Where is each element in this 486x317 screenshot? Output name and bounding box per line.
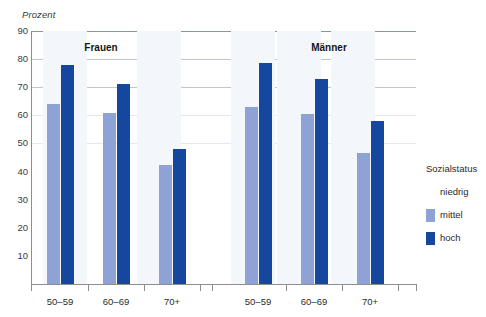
- legend-label-hoch: hoch: [440, 232, 461, 244]
- bar-männer-5059-mittel: [245, 107, 258, 284]
- bar-frauen-6069-mittel: [103, 113, 116, 284]
- y-axis-tick-labels: 908070605040302010: [0, 0, 28, 317]
- legend-item-niedrig[interactable]: niedrig: [426, 185, 469, 199]
- x-axis-tickmark: [212, 285, 213, 291]
- x-axis-tickmark: [88, 285, 89, 291]
- legend-label-mittel: mittel: [440, 209, 463, 221]
- legend-label-niedrig: niedrig: [440, 186, 469, 198]
- bar-frauen-6069-hoch: [117, 84, 130, 284]
- bar-frauen-70+-hoch: [173, 149, 186, 284]
- y-axis-tick-40: 40: [2, 167, 28, 177]
- y-axis-tick-30: 30: [2, 195, 28, 205]
- x-axis-label: 60–69: [301, 296, 327, 307]
- y-axis-tick-80: 80: [2, 54, 28, 64]
- x-axis-label: 70+: [164, 296, 180, 307]
- x-axis-label: 60–69: [103, 296, 129, 307]
- gridline-80: [31, 59, 416, 60]
- x-axis-tickmark: [31, 285, 32, 291]
- bar-männer-6069-mittel: [301, 114, 314, 284]
- x-axis-tickmark: [200, 285, 201, 291]
- bar-frauen-70+-mittel: [159, 165, 172, 284]
- panel-title-männer: Männer: [311, 42, 347, 53]
- y-axis-tick-10: 10: [2, 251, 28, 261]
- gridline-90: [31, 31, 416, 32]
- bar-frauen-5059-hoch: [61, 65, 74, 284]
- gridline-60: [31, 115, 416, 116]
- bar-männer-70+-hoch: [371, 121, 384, 284]
- legend-item-hoch[interactable]: hoch: [426, 231, 461, 245]
- y-axis-tick-20: 20: [2, 223, 28, 233]
- legend-swatch-hoch-icon: [426, 232, 435, 245]
- bar-männer-70+-mittel: [357, 153, 370, 284]
- y-axis-line: [31, 31, 32, 285]
- bar-frauen-5059-mittel: [47, 104, 60, 284]
- y-axis-tick-90: 90: [2, 26, 28, 36]
- plot-area: [31, 31, 416, 284]
- clipped-caption-strip: [0, 0, 486, 7]
- gridline-70: [31, 87, 416, 88]
- x-axis-label: 50–59: [245, 296, 271, 307]
- bar-männer-6069-hoch: [315, 79, 328, 284]
- y-axis-tick-60: 60: [2, 110, 28, 120]
- x-axis-tickmark: [286, 285, 287, 291]
- legend-title: Sozialstatus: [426, 163, 477, 174]
- x-axis-tickmark: [342, 285, 343, 291]
- legend-item-mittel[interactable]: mittel: [426, 208, 463, 222]
- gridline-50: [31, 143, 416, 144]
- bar-männer-5059-hoch: [259, 63, 272, 284]
- y-axis-tick-70: 70: [2, 82, 28, 92]
- x-axis-tickmark: [144, 285, 145, 291]
- legend-swatch-mittel-icon: [426, 209, 435, 222]
- y-axis-tick-50: 50: [2, 138, 28, 148]
- x-axis-tickmark: [398, 285, 399, 291]
- x-axis-label: 50–59: [47, 296, 73, 307]
- panel-title-frauen: Frauen: [84, 42, 117, 53]
- legend-swatch-niedrig-icon: [426, 186, 435, 199]
- x-axis-label: 70+: [362, 296, 378, 307]
- chart-figure: Prozent 908070605040302010 50–5960–6970+…: [0, 0, 486, 317]
- x-axis-tickmark: [416, 285, 417, 291]
